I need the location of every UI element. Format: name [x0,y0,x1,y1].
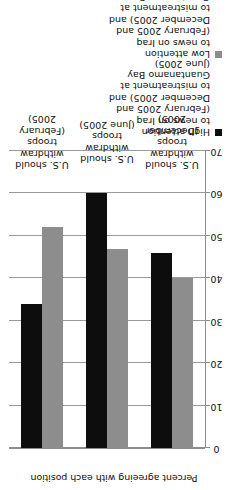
chart-figure-frame: Percent agreeing with each position 0102… [0,0,228,490]
tick-label-50: 50 [197,231,229,242]
value-axis-title: Percent agreeing with each position [31,473,198,484]
tick-label-0: 0 [197,444,229,455]
bar-high-attention-0 [21,304,42,448]
legend-swatch-low-attention [215,51,222,58]
gridline-50 [9,235,205,236]
tick-label-60: 60 [197,189,229,200]
tick-label-40: 40 [197,274,229,285]
tick-label-30: 30 [197,316,229,327]
bar-high-attention-1 [86,193,107,448]
legend-entry-high-attention[interactable]: High attention to news on Iraq (February… [8,58,222,138]
legend-label-high-attention: High attention to news on Iraq (February… [109,58,210,138]
gridline-60 [9,192,205,193]
bar-low-attention-2 [172,278,193,448]
value-axis-tick-labels [0,451,228,471]
legend-label-low-attention: Low attention to news on Iraq (February … [109,0,210,60]
bar-chart: Percent agreeing with each position 0102… [0,0,228,490]
tick-label-10: 10 [197,401,229,412]
tick-label-20: 20 [197,359,229,370]
bar-low-attention-1 [107,249,128,448]
bar-low-attention-0 [42,227,63,448]
legend-entry-low-attention[interactable]: Low attention to news on Iraq (February … [8,0,222,60]
legend-swatch-high-attention [215,129,222,136]
bar-high-attention-2 [151,253,172,448]
value-axis-title-container: Percent agreeing with each position [0,468,228,488]
plot-area [9,152,205,449]
